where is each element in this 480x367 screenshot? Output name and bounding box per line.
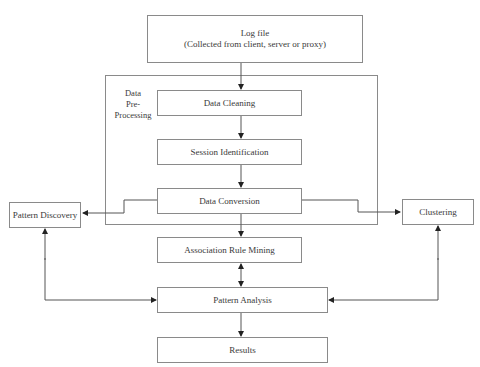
connectors [0, 0, 480, 367]
